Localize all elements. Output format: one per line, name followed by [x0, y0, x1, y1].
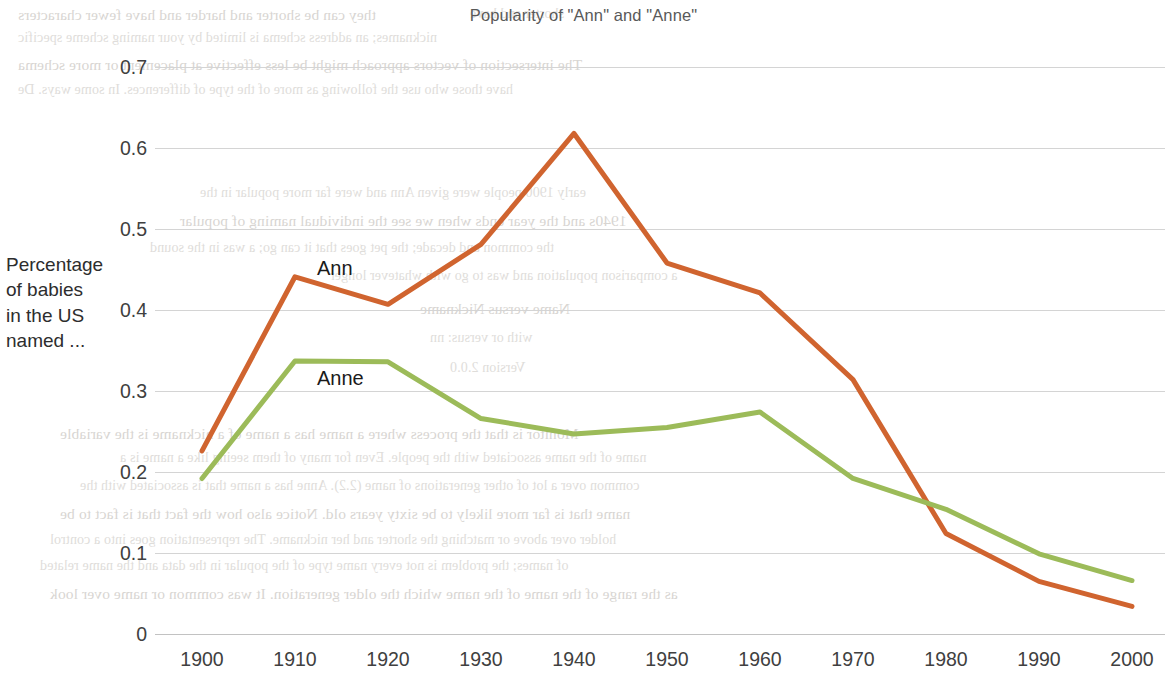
line-chart: Popularity of "Ann" and "Anne" Percentag…: [0, 0, 1167, 676]
y-axis-tick-label: 0.2: [27, 461, 147, 484]
y-axis-tick-label: 0.1: [27, 542, 147, 565]
y-axis-title-line-4: named ...: [6, 328, 138, 353]
y-axis-tick-label: 0: [27, 623, 147, 646]
chart-title: Popularity of "Ann" and "Anne": [0, 6, 1167, 25]
plot-area: 00.10.20.30.40.50.60.7190019101920193019…: [155, 60, 1165, 642]
series-line: [202, 361, 1132, 581]
y-axis-title-line-1: Percentage: [6, 252, 138, 277]
y-axis-tick-label: 0.5: [27, 218, 147, 241]
series-label-anne: Anne: [317, 367, 364, 390]
y-axis-tick-label: 0.3: [27, 380, 147, 403]
y-axis-tick-label: 0.7: [27, 56, 147, 79]
y-axis-tick-label: 0.6: [27, 137, 147, 160]
series-lines: [155, 60, 1165, 642]
y-axis-tick-label: 0.4: [27, 299, 147, 322]
series-label-ann: Ann: [317, 257, 353, 280]
x-axis-tick-label: 2000: [1072, 648, 1167, 671]
